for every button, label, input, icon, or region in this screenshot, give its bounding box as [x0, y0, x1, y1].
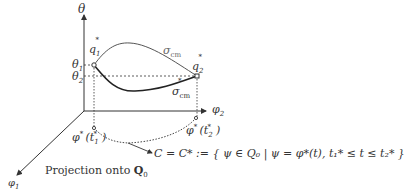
p2-close: ) [216, 124, 220, 137]
phi-symbol: φ [186, 124, 194, 137]
sigma-cm-subscript: cm [171, 51, 182, 59]
q2-superscript: * [199, 53, 203, 61]
q1-subscript: 1 [96, 50, 100, 58]
q0-symbol: Q [134, 164, 144, 177]
sigma-cm-label: σcm [163, 45, 181, 59]
phi2-axis-label: φ2 [212, 104, 224, 118]
t2-subscript: 2 [208, 131, 212, 139]
p1-arg: (t [85, 131, 94, 144]
p2-arg: (t [199, 124, 208, 137]
sigma-symbol: σ [163, 44, 171, 57]
theta-symbol: θ [78, 2, 85, 16]
q1-superscript: * [96, 36, 100, 44]
projection-curve [94, 118, 196, 143]
sigma-cm-curve [94, 43, 197, 76]
p1-close: ) [102, 131, 106, 144]
q-symbol: q [192, 60, 199, 73]
t1-subscript: 1 [94, 138, 98, 146]
q1-label: q1* [89, 43, 104, 58]
proj-p2-point [194, 116, 197, 119]
phi-symbol: φ [8, 177, 15, 188]
theta2-label: θ2 [72, 71, 83, 85]
t1-star: * [94, 130, 98, 138]
sigma-cm-star-subscript: cm [180, 92, 191, 100]
projection-caption: Projection onto Q0 [45, 165, 148, 179]
phi-symbol: φ [72, 131, 80, 144]
theta-symbol: θ [72, 70, 79, 83]
q-symbol: q [89, 43, 96, 56]
definition-formula: C = C* := { ψ ∈ Q₀ | ψ = φ*(t), t₁* ≤ t … [154, 148, 405, 159]
theta2-subscript: 2 [79, 77, 83, 85]
phi2-subscript: 2 [220, 110, 224, 118]
q2-label: q2* [192, 60, 207, 75]
sigma-symbol: σ [172, 85, 180, 98]
proj-p2-label: φ* (t2*) [186, 124, 220, 139]
q0-subscript: 0 [143, 171, 147, 179]
q1-point [92, 63, 96, 67]
t2-star: * [208, 123, 212, 131]
phi1-subscript: 1 [15, 183, 19, 191]
phi-symbol: φ [212, 103, 220, 116]
sigma-cm-star-label: σcm* [172, 85, 194, 100]
caption-text: Projection onto [45, 164, 130, 177]
theta-axis-label: θ [78, 3, 85, 15]
phi1-axis-label: φ1 [8, 178, 19, 191]
proj-p1-label: φ* (t1*) [72, 131, 106, 146]
q2-subscript: 2 [199, 67, 203, 75]
sigma-cm-star-superscript: * [178, 77, 182, 85]
definition-pointer [128, 143, 152, 153]
